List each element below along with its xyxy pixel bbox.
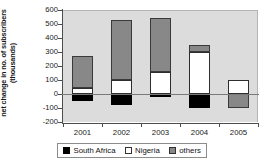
- x-tick-mark: [258, 123, 259, 127]
- y-axis-title-line2: (thousands): [9, 0, 18, 126]
- bar-segment-nigeria: [111, 80, 132, 94]
- y-tick-label: -200: [43, 118, 58, 126]
- black-square-swatch-icon: [63, 147, 70, 154]
- chart-figure: net change in no. of subscribers (thousa…: [0, 0, 266, 164]
- gray-square-swatch-icon: [169, 147, 176, 154]
- chart-legend: South Africa Nigeria others: [57, 143, 207, 158]
- y-tick-mark: [58, 38, 63, 39]
- x-tick-mark: [180, 123, 181, 127]
- y-tick-mark: [58, 108, 63, 109]
- x-tick-label: 2003: [141, 128, 181, 137]
- legend-label-nigeria: Nigeria: [135, 146, 160, 155]
- x-axis-line: [62, 123, 259, 124]
- white-square-swatch-icon: [125, 147, 132, 154]
- y-tick-mark: [58, 24, 63, 25]
- x-tick-label: 2005: [219, 128, 259, 137]
- y-tick-mark: [58, 66, 63, 67]
- x-tick-label: 2004: [180, 128, 220, 137]
- legend-label-south-africa: South Africa: [74, 146, 116, 155]
- legend-label-others: others: [179, 146, 201, 155]
- bar-segment-nigeria: [150, 72, 171, 94]
- y-tick-mark: [58, 80, 63, 81]
- y-axis-title: net change in no. of subscribers (thousa…: [0, 0, 24, 128]
- x-tick-mark: [63, 123, 64, 127]
- x-tick-label: 2001: [63, 128, 103, 137]
- y-tick-label: 0: [54, 90, 58, 98]
- bar-segment-others: [228, 94, 249, 108]
- x-tick-mark: [219, 123, 220, 127]
- legend-item-nigeria: Nigeria: [125, 146, 160, 155]
- bar-segment-south-africa: [111, 94, 132, 105]
- y-tick-mark: [58, 52, 63, 53]
- bar-segment-others: [72, 56, 93, 88]
- y-tick-label: 200: [45, 62, 58, 70]
- y-tick-label: 500: [45, 20, 58, 28]
- y-tick-label: 100: [45, 76, 58, 84]
- y-axis-title-line1: net change in no. of subscribers: [0, 9, 8, 117]
- bar-segment-nigeria: [228, 80, 249, 94]
- bar-segment-south-africa: [189, 94, 210, 108]
- x-tick-label: 2002: [102, 128, 142, 137]
- legend-item-others: others: [169, 146, 201, 155]
- y-tick-label: 600: [45, 6, 58, 14]
- y-tick-mark: [58, 10, 63, 11]
- y-tick-label: -100: [43, 104, 58, 112]
- y-tick-label: 400: [45, 34, 58, 42]
- bar-segment-others: [150, 18, 171, 71]
- y-tick-label: 300: [45, 48, 58, 56]
- bar-segment-nigeria: [189, 52, 210, 94]
- x-tick-mark: [141, 123, 142, 127]
- bar-segment-others: [111, 20, 132, 80]
- x-tick-mark: [102, 123, 103, 127]
- legend-item-south-africa: South Africa: [63, 146, 116, 155]
- zero-line: [62, 94, 259, 95]
- bar-segment-others: [189, 45, 210, 52]
